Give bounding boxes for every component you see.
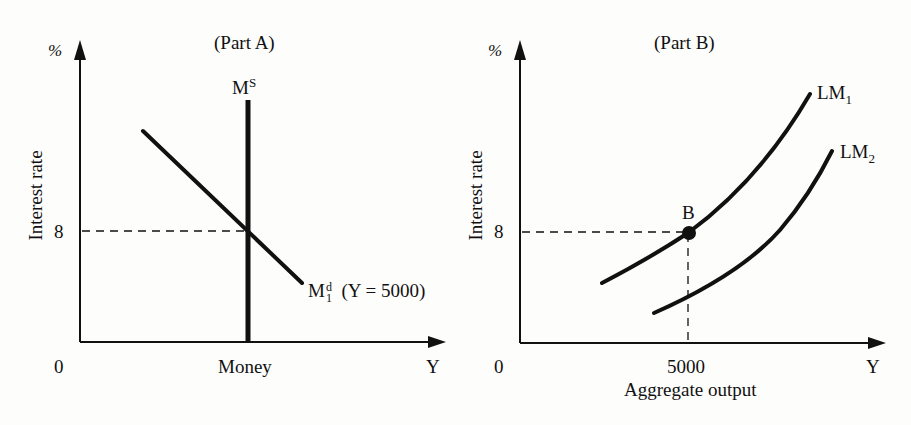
- point-b-label: B: [682, 203, 695, 222]
- y-axis-arrow-icon: [74, 40, 86, 60]
- part-b-y-axis-label: Interest rate: [466, 141, 485, 251]
- part-b-y-tick-8: 8: [494, 222, 504, 241]
- x-axis-arrow-icon: [428, 336, 446, 348]
- money-demand-curve: [143, 131, 302, 283]
- part-b-x-tick-5000: 5000: [667, 357, 705, 376]
- lm2-label: LM2: [840, 142, 875, 165]
- part-a-y-axis-label: Interest rate: [26, 141, 45, 251]
- x-axis-arrow-icon: [868, 337, 886, 349]
- y-axis-arrow-icon: [514, 40, 526, 60]
- part-b-x-axis-label: Aggregate output: [624, 380, 756, 399]
- lm1-label: LM1: [817, 83, 852, 106]
- money-demand-label: Md1 (Y = 5000): [308, 281, 425, 304]
- part-a-origin: 0: [54, 357, 64, 376]
- part-a-y-unit: %: [48, 42, 62, 59]
- part-a-x-axis-label: Money: [218, 357, 272, 376]
- diagram-canvas: [0, 0, 911, 425]
- part-b-origin: 0: [494, 357, 504, 376]
- part-a-x-end-label: Y: [426, 357, 440, 376]
- part-b-x-end-label: Y: [866, 357, 880, 376]
- lm1-curve: [602, 94, 810, 283]
- part-b-y-unit: %: [488, 42, 502, 59]
- part-a-y-tick-8: 8: [54, 222, 64, 241]
- point-b-marker: [682, 226, 696, 240]
- part-a-title: (Part A): [214, 33, 275, 52]
- part-b-title: (Part B): [654, 33, 715, 52]
- money-supply-label: MS: [232, 76, 256, 97]
